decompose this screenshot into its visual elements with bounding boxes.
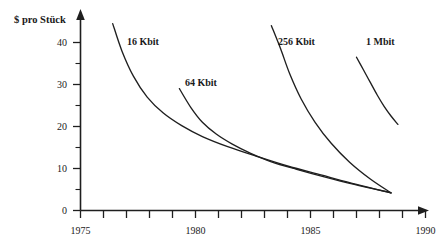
y-tick-label-10: 10 [57,163,67,174]
x-tick-label-1985: 1985 [301,225,321,236]
y-tick-labels: 40 30 20 10 0 [57,37,67,216]
curve-1-mbit [357,57,398,124]
chart-figure: 40 30 20 10 0 1975 1980 1985 1990 $ pro … [0,0,443,250]
x-axis-arrow-icon [418,206,429,215]
y-axis-ticks [73,43,81,211]
data-curves [113,24,398,193]
y-tick-label-40: 40 [57,37,67,48]
x-axis-ticks [81,211,426,219]
x-tick-label-1990: 1990 [416,225,436,236]
series-label-64kbit: 64 Kbit [185,77,218,88]
y-tick-label-0: 0 [62,205,67,216]
x-tick-label-1980: 1980 [186,225,206,236]
y-axis [76,9,85,211]
series-label-256kbit: 256 Kbit [278,36,316,47]
series-label-16kbit: 16 Kbit [127,36,160,47]
series-label-1mbit: 1 Mbit [366,36,395,47]
y-tick-label-30: 30 [57,79,67,90]
y-tick-label-20: 20 [57,121,67,132]
chart-svg: 40 30 20 10 0 1975 1980 1985 1990 $ pro … [0,0,443,250]
x-axis [81,206,430,215]
curve-16-kbit [113,24,391,193]
series-labels: 16 Kbit 64 Kbit 256 Kbit 1 Mbit [127,36,395,88]
y-axis-title: $ pro Stück [14,14,66,25]
y-axis-arrow-icon [76,9,85,20]
x-tick-label-1975: 1975 [71,225,91,236]
x-tick-labels: 1975 1980 1985 1990 [71,225,436,236]
